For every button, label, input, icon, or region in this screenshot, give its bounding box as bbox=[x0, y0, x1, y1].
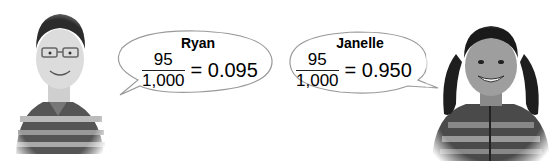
ryan-photo bbox=[8, 4, 108, 161]
janelle-name: Janelle bbox=[280, 35, 440, 51]
ryan-name: Ryan bbox=[118, 35, 278, 51]
ryan-speech-bubble: Ryan 95 1,000 = 0.095 bbox=[108, 28, 278, 98]
ryan-fraction: 95 1,000 bbox=[142, 51, 185, 90]
ryan-result: = 0.095 bbox=[191, 59, 258, 82]
janelle-result: = 0.950 bbox=[345, 59, 412, 82]
janelle-equation: 95 1,000 = 0.950 bbox=[296, 51, 412, 90]
janelle-fraction: 95 1,000 bbox=[296, 51, 339, 90]
janelle-photo bbox=[426, 14, 554, 161]
janelle-speech-bubble: Janelle 95 1,000 = 0.950 bbox=[280, 28, 440, 96]
ryan-equation: 95 1,000 = 0.095 bbox=[142, 51, 258, 90]
